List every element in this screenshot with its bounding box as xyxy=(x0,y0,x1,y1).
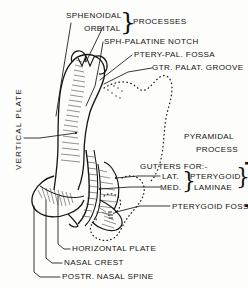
label-pterygoid-fossa: PTERYGOID FOSSA xyxy=(172,203,248,211)
label-sphenoidal: SPHENOIDAL xyxy=(66,12,122,20)
label-horizontal-plate: HORIZONTAL PLATE xyxy=(72,245,156,253)
brace-group-outer: } xyxy=(239,158,248,206)
label-sph-palatine-notch: SPH-PALATINE NOTCH xyxy=(104,38,199,46)
label-nasal-crest: NASAL CREST xyxy=(64,259,124,267)
leader-lines-gutters xyxy=(99,176,160,190)
label-lat: LAT. xyxy=(162,173,179,181)
label-laminae: LAMINAE xyxy=(194,184,232,192)
label-orbital: ORBITAL xyxy=(84,25,120,33)
label-postr-nasal-spine: POSTR. NASAL SPINE xyxy=(62,273,153,281)
figure-canvas: VERTICAL PLATE SPHENOIDAL ORBITAL } PROC… xyxy=(0,0,248,288)
label-vertical-plate: VERTICAL PLATE xyxy=(14,88,23,170)
label-gutters-for: GUTTERS FOR:- xyxy=(140,163,208,171)
leader-line-pterygoid-fossa xyxy=(115,206,170,213)
dotted-detail-palatine-groove xyxy=(107,85,122,98)
label-process: PROCESS xyxy=(196,146,238,154)
label-processes: PROCESSES xyxy=(133,18,187,26)
label-pyramidal: PYRAMIDAL xyxy=(184,133,234,141)
label-med: MED. xyxy=(160,184,182,192)
label-gtr-palat-groove: GTR. PALAT. GROOVE xyxy=(152,64,243,72)
label-pterygoid: PTERYGOID xyxy=(190,173,241,181)
label-ptery-pal-fossa: PTERY-PAL. FOSSA xyxy=(134,51,215,59)
bone-nasal-crest xyxy=(78,150,98,226)
